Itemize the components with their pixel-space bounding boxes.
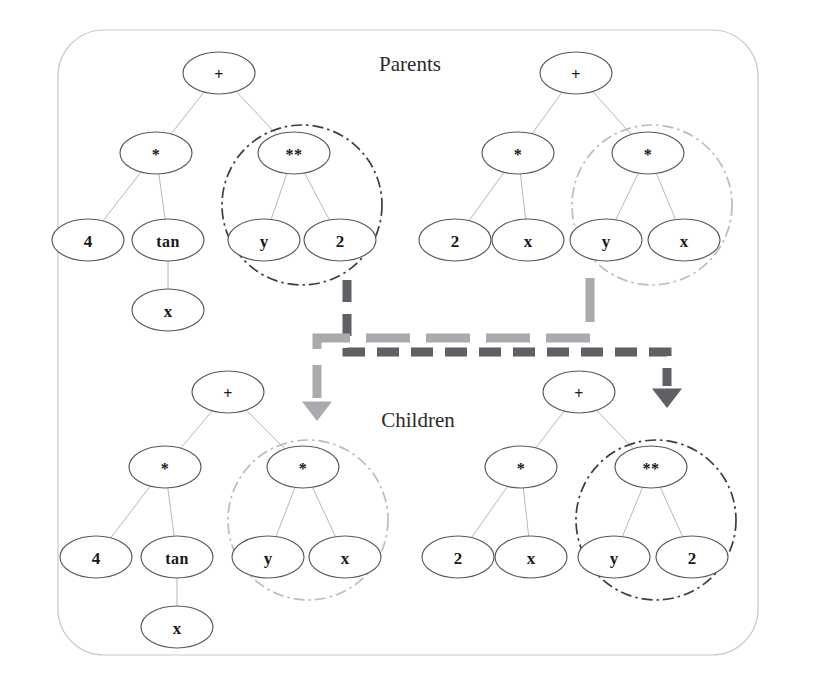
tree-edge <box>616 173 638 220</box>
node-label: y <box>260 232 269 251</box>
tree-edge <box>593 92 632 135</box>
tree-node[interactable]: x <box>132 289 204 331</box>
tree-node[interactable]: * <box>129 446 201 488</box>
tree-node[interactable]: 2 <box>656 536 728 578</box>
tree-node[interactable]: + <box>183 52 255 94</box>
tree-edge <box>660 487 683 536</box>
tree-edge <box>305 173 330 220</box>
node-label: x <box>680 232 689 251</box>
tree-node[interactable]: x <box>141 606 213 648</box>
tree-node[interactable]: 2 <box>419 219 491 261</box>
tree-edge <box>236 91 276 134</box>
tree-node[interactable]: ** <box>615 446 687 488</box>
tree-node[interactable]: 4 <box>60 536 132 578</box>
tree-edge <box>159 174 165 219</box>
node-label: 4 <box>84 232 93 251</box>
node-label: x <box>341 549 350 568</box>
tree-edge <box>520 174 525 219</box>
crossover-arrow-layer <box>302 278 682 421</box>
tree-node[interactable]: y <box>578 536 650 578</box>
node-label: y <box>610 549 619 568</box>
node-label: 2 <box>688 549 697 568</box>
tree-node[interactable]: + <box>192 371 264 413</box>
node-label: 4 <box>92 549 101 568</box>
crossover-arrow-dark-head <box>652 389 682 409</box>
tree-node[interactable]: ** <box>258 132 330 174</box>
node-label: * <box>152 146 161 163</box>
node-label: x <box>527 549 536 568</box>
node-label: + <box>223 385 233 402</box>
tree-edge <box>622 487 642 536</box>
crossover-arrow-light-head <box>302 402 332 422</box>
tree-edge <box>103 172 141 221</box>
tree-edge <box>469 172 504 220</box>
node-label: * <box>644 146 653 163</box>
node-label: tan <box>156 233 180 250</box>
node-label: x <box>524 232 533 251</box>
node-label: * <box>299 460 308 477</box>
node-label: * <box>161 460 170 477</box>
tree-node[interactable]: x <box>648 219 720 261</box>
tree-node[interactable]: x <box>492 219 564 261</box>
tree-node[interactable]: y <box>232 536 304 578</box>
tree-edge <box>246 410 285 449</box>
tree-edge <box>597 410 634 448</box>
tree-node[interactable]: tan <box>141 536 213 578</box>
node-label: tan <box>165 550 189 567</box>
tree-edge <box>536 411 564 448</box>
tree-edge <box>276 487 295 536</box>
node-label: ** <box>286 146 303 163</box>
node-label: 2 <box>451 232 460 251</box>
tree-edge <box>271 174 287 220</box>
tree-edge <box>168 488 174 536</box>
node-label: + <box>571 66 581 83</box>
node-label: y <box>602 232 611 251</box>
tree-edge <box>523 488 528 536</box>
tree-node[interactable]: 2 <box>422 536 494 578</box>
tree-node[interactable]: 2 <box>304 219 376 261</box>
tree-node[interactable]: * <box>267 446 339 488</box>
tree-node[interactable]: x <box>495 536 567 578</box>
node-label: 2 <box>454 549 463 568</box>
node-label: * <box>514 146 523 163</box>
subtree-highlight-layer <box>222 125 736 600</box>
node-label: ** <box>643 460 660 477</box>
tree-node[interactable]: + <box>540 52 612 94</box>
node-label: x <box>173 619 182 638</box>
node-label: y <box>264 549 273 568</box>
tree-node[interactable]: x <box>309 536 381 578</box>
tree-node[interactable]: * <box>120 132 192 174</box>
tree-node[interactable]: * <box>612 132 684 174</box>
crossover-arrow-dark <box>347 280 667 386</box>
tree-edge <box>111 486 151 538</box>
tree-node[interactable]: tan <box>132 219 204 261</box>
tree-edge <box>312 487 335 536</box>
node-label: 2 <box>336 232 345 251</box>
tree-node[interactable]: + <box>543 371 615 413</box>
node-label: + <box>214 66 224 83</box>
tree-edge <box>472 486 508 537</box>
tree-edge <box>532 92 562 133</box>
tree-node[interactable]: * <box>482 132 554 174</box>
parents-label: Parents <box>379 52 441 76</box>
tree-node[interactable]: y <box>228 219 300 261</box>
tree-edge <box>656 173 675 219</box>
tree-edge <box>181 411 212 448</box>
tree-node[interactable]: 4 <box>52 219 124 261</box>
tree-edge <box>171 92 204 134</box>
node-label: x <box>164 302 173 321</box>
diagram-canvas: +***4tany2x+**2xyx+**4tanyxx+***2xy2 Par… <box>0 0 815 695</box>
node-label: * <box>517 460 526 477</box>
node-label: + <box>574 385 584 402</box>
children-label: Children <box>381 408 455 432</box>
tree-node[interactable]: * <box>485 446 557 488</box>
tree-node[interactable]: y <box>570 219 642 261</box>
crossover-diagram: +***4tany2x+**2xyx+**4tanyxx+***2xy2 Par… <box>0 0 815 695</box>
